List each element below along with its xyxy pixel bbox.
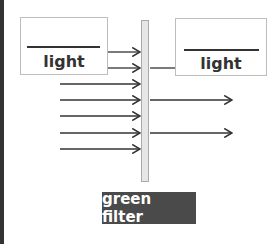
diagram: light light green filter <box>0 0 278 244</box>
filter-label: green filter <box>102 192 196 224</box>
green-filter-bar <box>141 20 149 182</box>
